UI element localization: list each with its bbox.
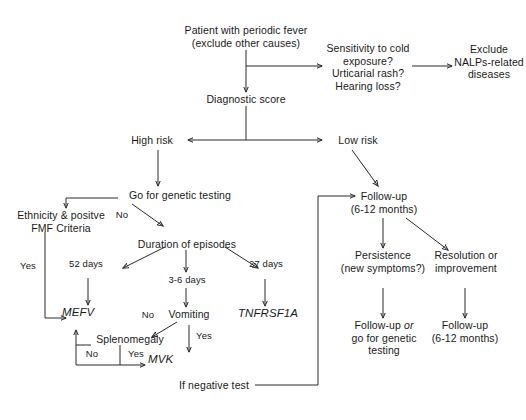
node-nalp-questions: Sensitivity to cold exposure? Urticarial… — [325, 42, 411, 92]
node-followup-or-genetic: Follow-up or go for genetic testing — [334, 319, 434, 357]
node-patient: Patient with periodic fever (exclude oth… — [166, 24, 326, 49]
edge-genetic-to-ethnicity — [66, 198, 118, 208]
edge-label-yes-fmf: Yes — [16, 260, 40, 271]
edge-splenomegaly-no-to-mefv — [76, 330, 91, 345]
node-vomiting: Vomiting — [160, 308, 218, 321]
node-followup-bottom: Follow-up (6-12 months) — [422, 319, 508, 344]
edge-negative-test-to-followup — [255, 196, 355, 385]
followup-genetic-pre: Follow-up — [355, 319, 404, 331]
edge-label-52-days: 52 days — [60, 258, 112, 269]
node-if-negative-test: If negative test — [172, 379, 256, 392]
followup-genetic-post: go for genetic testing — [351, 332, 416, 357]
node-tnfrsf1a: TNFRSF1A — [230, 307, 306, 320]
edge-label-yes-splenomegaly: Yes — [124, 348, 148, 359]
node-genetic-testing: Go for genetic testing — [118, 189, 242, 202]
node-resolution: Resolution or improvement — [424, 249, 508, 274]
edge-low-risk-to-followup — [352, 150, 378, 186]
node-diagnostic-score: Diagnostic score — [196, 93, 296, 106]
node-mvk: MVK — [148, 353, 192, 366]
edge-label-no-fmf: No — [112, 209, 132, 220]
followup-genetic-or: or — [404, 319, 414, 331]
edge-label-yes-vomiting: Yes — [192, 330, 216, 341]
node-high-risk: High risk — [120, 134, 184, 147]
node-duration-of-episodes: Duration of episodes — [131, 238, 243, 251]
edge-genetic-no-to-duration — [132, 204, 163, 226]
node-exclude-nalps: Exclude NALPs-related diseases — [452, 43, 526, 81]
node-splenomegaly: Splenomegaly — [90, 333, 170, 346]
node-low-risk: Low risk — [328, 134, 388, 147]
flowchart-canvas: Patient with periodic fever (exclude oth… — [0, 0, 526, 420]
edge-followup-to-resolution — [406, 218, 448, 250]
edge-label-3-6-days: 3-6 days — [160, 274, 214, 285]
edge-label-no-vomiting: No — [138, 309, 158, 320]
edge-label-no-splenomegaly: No — [82, 348, 102, 359]
node-persistence: Persistence (new symptoms?) — [330, 249, 436, 274]
node-mefv: MEFV — [62, 306, 116, 319]
node-followup-top: Follow-up (6-12 months) — [342, 190, 426, 215]
node-ethnicity-fmf: Ethnicity & positve FMF Criteria — [6, 209, 116, 234]
edge-label-27-days: 27 days — [240, 258, 292, 269]
